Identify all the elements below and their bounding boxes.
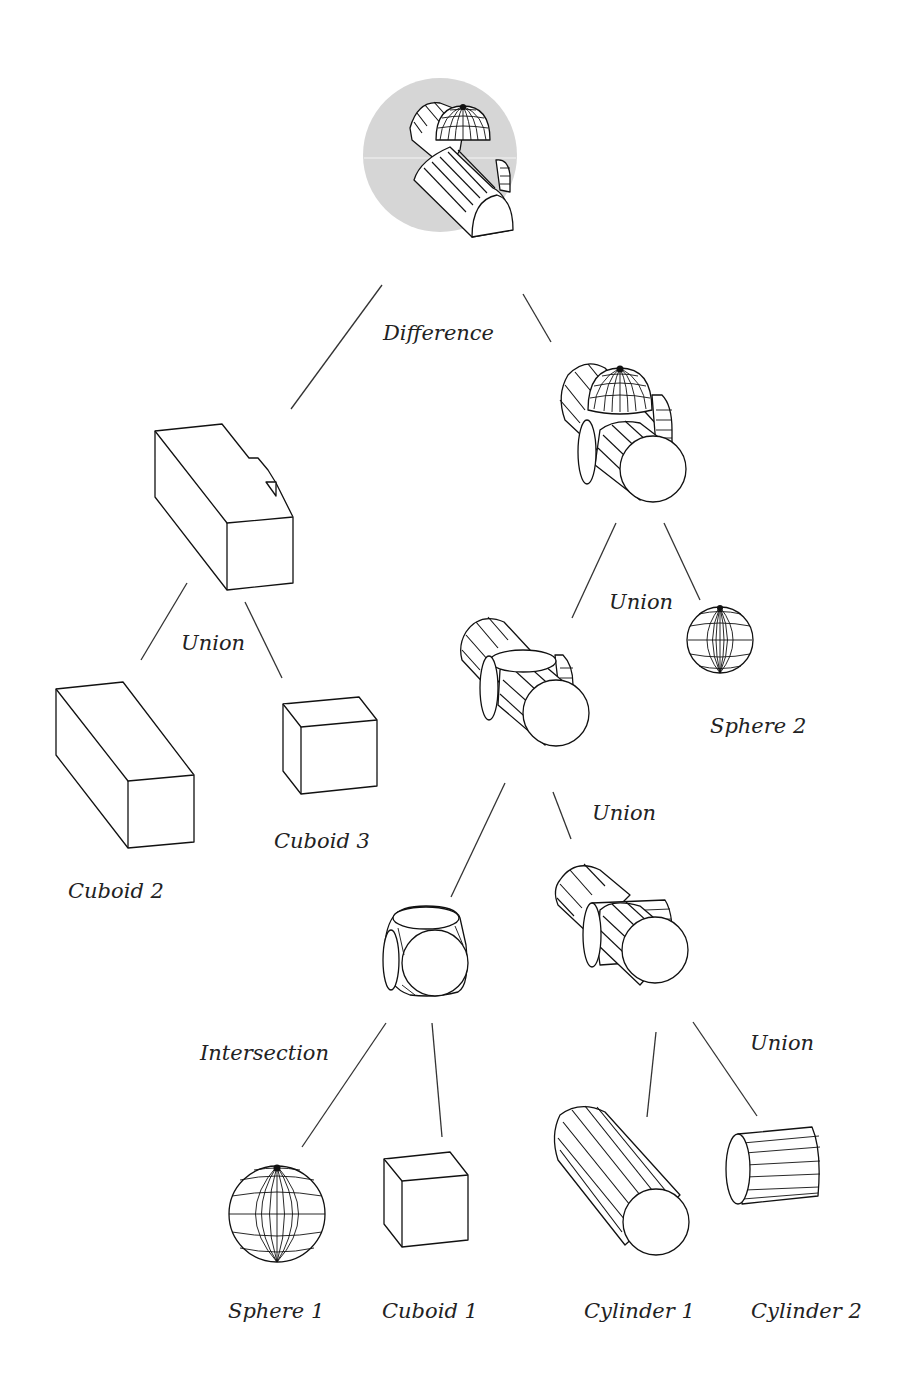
- label-cuboid3: Cuboid 3: [274, 829, 370, 853]
- label-union-right-top: Union: [609, 590, 673, 614]
- edge-difference-union-right: [523, 294, 551, 342]
- node-cuboid3[interactable]: [283, 697, 377, 794]
- label-difference: Difference: [382, 321, 494, 345]
- node-cylinder1[interactable]: [554, 1106, 689, 1255]
- node-cuboid2[interactable]: [56, 682, 194, 848]
- node-union-right-result[interactable]: [560, 364, 686, 502]
- label-union-mid: Union: [592, 801, 656, 825]
- node-sphere2[interactable]: [687, 605, 753, 673]
- label-cylinder2: Cylinder 2: [751, 1299, 862, 1323]
- label-cylinder1: Cylinder 1: [584, 1299, 695, 1323]
- csg-tree-diagram: Difference Union Union Union Intersectio…: [0, 0, 905, 1395]
- node-cylinder2[interactable]: [726, 1127, 820, 1204]
- node-union-cyl-result[interactable]: [555, 864, 688, 985]
- node-union-left-result[interactable]: [155, 424, 293, 590]
- edge-union-cyl-cylinder1: [647, 1032, 656, 1117]
- edge-difference-union-left: [291, 285, 382, 409]
- node-sphere1[interactable]: [229, 1165, 325, 1263]
- edge-intersection-cuboid1: [432, 1023, 442, 1137]
- label-intersection: Intersection: [199, 1041, 329, 1065]
- edge-union-right-sphere2: [664, 523, 700, 600]
- node-difference-result[interactable]: [363, 78, 517, 237]
- label-sphere2: Sphere 2: [710, 714, 806, 738]
- label-union-cyl: Union: [750, 1031, 814, 1055]
- node-intersection-result[interactable]: [383, 906, 468, 996]
- label-sphere1: Sphere 1: [228, 1299, 324, 1323]
- node-union-mid-result[interactable]: [461, 617, 589, 746]
- node-cuboid1[interactable]: [384, 1152, 468, 1247]
- label-union-left: Union: [181, 631, 245, 655]
- edge-union-cyl-cylinder2: [693, 1022, 757, 1116]
- edge-union-left-cuboid3: [245, 602, 282, 678]
- edge-union-mid-intersection: [451, 783, 505, 897]
- label-cuboid2: Cuboid 2: [68, 879, 164, 903]
- edge-union-mid-union-cyl: [553, 792, 571, 839]
- label-cuboid1: Cuboid 1: [382, 1299, 478, 1323]
